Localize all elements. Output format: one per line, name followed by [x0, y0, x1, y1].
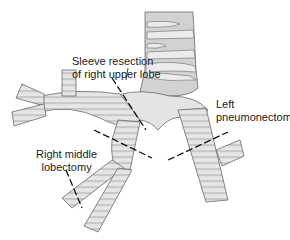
label-left-pneumonectomy: Left pneumonectomy — [216, 98, 290, 124]
label-line: Left — [216, 98, 290, 111]
apical-segment-bronchus — [16, 84, 44, 106]
label-line: Sleeve resection — [72, 55, 161, 68]
posterior-segment-bronchus — [12, 104, 46, 126]
label-right-middle-lobectomy: Right middle lobectomy — [36, 148, 97, 174]
trachea — [140, 12, 198, 96]
label-line: of right upper lobe — [72, 68, 161, 81]
label-line: Right middle — [36, 148, 97, 161]
label-line: pneumonectomy — [216, 111, 290, 124]
label-line: lobectomy — [36, 161, 97, 174]
label-sleeve-resection: Sleeve resection of right upper lobe — [72, 55, 161, 81]
left-upper-lobe-stub — [216, 140, 244, 166]
